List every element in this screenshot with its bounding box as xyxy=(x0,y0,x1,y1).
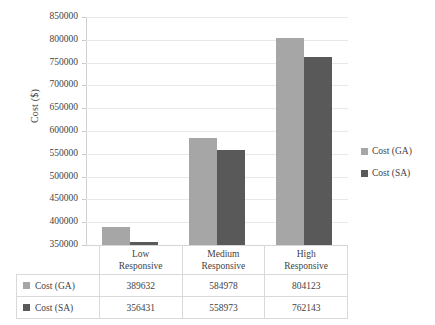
chart-figure: Cost ($) 8500008000007500007000006500006… xyxy=(0,0,435,325)
category-high-line2: Responsive xyxy=(265,260,347,272)
legend-item-cost-sa: Cost (SA) xyxy=(361,162,435,184)
table-category-high: High Responsive xyxy=(265,245,348,275)
category-low-line2: Responsive xyxy=(100,260,182,272)
table-cell-ga-high: 804123 xyxy=(265,275,348,297)
table-swatch-icon-ga xyxy=(23,282,30,289)
category-medium-line2: Responsive xyxy=(183,260,265,272)
table-cell-sa-medium: 558973 xyxy=(182,297,265,319)
y-axis-tick-label: 550000 xyxy=(18,148,78,158)
chart-legend: Cost (GA) Cost (SA) xyxy=(361,140,435,184)
table-cell-sa-low: 356431 xyxy=(99,297,182,319)
bar-sa-2 xyxy=(304,57,332,245)
category-medium-line1: Medium xyxy=(183,248,265,260)
y-axis-tick-label: 800000 xyxy=(18,34,78,44)
plot-area xyxy=(86,17,348,245)
legend-item-cost-ga: Cost (GA) xyxy=(361,140,435,162)
table-row-header-sa: Cost (SA) xyxy=(17,297,100,319)
table-row-categories: Low Responsive Medium Responsive High Re… xyxy=(17,245,348,275)
table-cell-sa-high: 762143 xyxy=(265,297,348,319)
table-row-label-ga: Cost (GA) xyxy=(35,281,75,291)
legend-label-sa: Cost (SA) xyxy=(372,168,410,178)
table-corner-cell xyxy=(17,245,100,275)
table-cell-ga-medium: 584978 xyxy=(182,275,265,297)
category-high-line1: High xyxy=(265,248,347,260)
table-row: Cost (SA) 356431 558973 762143 xyxy=(17,297,348,319)
y-axis-tick-label: 450000 xyxy=(18,193,78,203)
legend-label-ga: Cost (GA) xyxy=(372,146,412,156)
table-row-label-sa: Cost (SA) xyxy=(35,303,73,313)
bar-ga-1 xyxy=(189,138,217,245)
legend-swatch-icon-sa xyxy=(361,170,368,177)
gridline xyxy=(86,40,348,41)
legend-swatch-icon-ga xyxy=(361,148,368,155)
bar-ga-2 xyxy=(276,38,304,245)
data-table: Low Responsive Medium Responsive High Re… xyxy=(16,245,348,319)
table-row: Cost (GA) 389632 584978 804123 xyxy=(17,275,348,297)
y-axis-tick-label: 700000 xyxy=(18,79,78,89)
y-axis-tick-label: 600000 xyxy=(18,125,78,135)
gridline xyxy=(86,17,348,18)
table-cell-ga-low: 389632 xyxy=(99,275,182,297)
y-axis-tick-label: 500000 xyxy=(18,171,78,181)
y-axis-tick-label: 650000 xyxy=(18,102,78,112)
table-category-low: Low Responsive xyxy=(99,245,182,275)
y-axis-tick-label: 850000 xyxy=(18,11,78,21)
table-category-medium: Medium Responsive xyxy=(182,245,265,275)
bar-sa-1 xyxy=(217,150,245,245)
bar-ga-0 xyxy=(102,227,130,245)
table-row-header-ga: Cost (GA) xyxy=(17,275,100,297)
category-low-line1: Low xyxy=(100,248,182,260)
y-axis-tick-label: 400000 xyxy=(18,216,78,226)
y-axis-tick-label: 750000 xyxy=(18,57,78,67)
table-swatch-icon-sa xyxy=(23,304,30,311)
